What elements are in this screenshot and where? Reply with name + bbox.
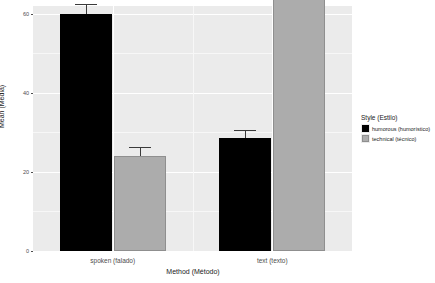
error-bar-line: [245, 130, 246, 139]
gridline-major: [33, 251, 352, 252]
bar-chart: Mean (Média) Method (Método) Style (Esti…: [0, 0, 435, 283]
bar: [273, 0, 325, 251]
bar: [114, 156, 166, 251]
legend-key-technical: [361, 134, 370, 143]
error-bar: [114, 147, 166, 156]
y-tick-mark: [31, 251, 33, 252]
legend-label-technical: technical (técnico): [372, 136, 416, 142]
error-bar: [60, 4, 112, 13]
bar: [60, 14, 112, 251]
legend-key-humorous: [361, 124, 370, 133]
error-bar-line: [86, 4, 87, 13]
plot-panel: [33, 6, 352, 251]
x-axis-title: Method (Método): [166, 268, 219, 275]
error-bar-cap: [75, 4, 97, 5]
y-axis-title: Mean (Média): [0, 85, 5, 128]
legend-swatch-technical-icon: [362, 135, 369, 142]
error-bar-cap: [129, 147, 151, 148]
y-tick-mark: [31, 14, 33, 15]
legend-title: Style (Estilo): [361, 114, 433, 121]
y-tick-label: 40: [23, 90, 29, 96]
y-tick-mark: [31, 172, 33, 173]
legend-item-humorous: humorous (humorístico): [361, 124, 433, 133]
y-tick-label: 20: [23, 169, 29, 175]
x-tick-label: spoken (falado): [90, 257, 135, 264]
legend: Style (Estilo) humorous (humorístico) te…: [361, 114, 433, 144]
y-tick-label: 60: [23, 11, 29, 17]
error-bar: [219, 130, 271, 139]
legend-label-humorous: humorous (humorístico): [372, 126, 430, 132]
y-tick-mark: [31, 93, 33, 94]
legend-item-technical: technical (técnico): [361, 134, 433, 143]
gridline-vertical-minor: [193, 6, 194, 251]
x-tick-label: text (texto): [257, 257, 288, 264]
bar: [219, 138, 271, 251]
error-bar-cap: [234, 130, 256, 131]
y-tick-label: 0: [26, 248, 29, 254]
legend-swatch-humorous-icon: [362, 125, 369, 132]
error-bar-line: [140, 147, 141, 156]
